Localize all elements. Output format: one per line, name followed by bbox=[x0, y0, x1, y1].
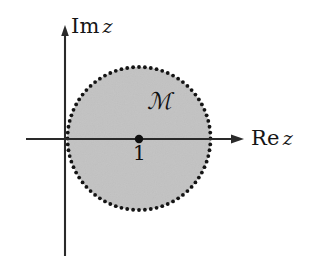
boundary-dot bbox=[72, 165, 76, 169]
boundary-dot bbox=[206, 154, 210, 158]
boundary-dot bbox=[205, 160, 209, 164]
boundary-dot bbox=[98, 196, 102, 200]
boundary-dot bbox=[68, 119, 72, 123]
boundary-dot bbox=[69, 160, 73, 164]
boundary-dot bbox=[208, 143, 212, 147]
real-axis-label: Rez bbox=[251, 128, 293, 149]
boundary-dot bbox=[103, 199, 107, 203]
boundary-dot bbox=[176, 77, 180, 81]
boundary-dot bbox=[89, 84, 93, 88]
boundary-dot bbox=[120, 206, 124, 210]
boundary-dot bbox=[81, 181, 85, 185]
boundary-dot bbox=[208, 148, 212, 152]
boundary-dot bbox=[190, 185, 194, 189]
boundary-dot bbox=[181, 193, 185, 197]
boundary-dot bbox=[125, 66, 129, 70]
boundary-dot bbox=[200, 171, 204, 175]
boundary-dot bbox=[160, 204, 164, 208]
imaginary-axis-label: Imz bbox=[71, 16, 113, 37]
boundary-dot bbox=[74, 171, 78, 175]
boundary-dot bbox=[208, 131, 212, 135]
real-axis-label-roman: Re bbox=[251, 126, 280, 150]
boundary-dot bbox=[114, 69, 118, 73]
boundary-dot bbox=[197, 97, 201, 101]
boundary-dot bbox=[208, 125, 212, 129]
boundary-dot bbox=[72, 108, 76, 112]
boundary-dot bbox=[186, 189, 190, 193]
boundary-dot bbox=[108, 202, 112, 206]
boundary-dot bbox=[171, 199, 175, 203]
boundary-dot bbox=[186, 84, 190, 88]
boundary-dot bbox=[137, 208, 141, 212]
boundary-dot bbox=[68, 154, 72, 158]
boundary-dot bbox=[85, 88, 89, 92]
boundary-dot bbox=[137, 65, 141, 69]
boundary-dot bbox=[160, 69, 164, 73]
boundary-dot bbox=[66, 143, 70, 147]
boundary-dot bbox=[166, 71, 170, 75]
right-arrow-icon bbox=[231, 134, 244, 143]
boundary-dot bbox=[197, 176, 201, 180]
complex-plane-figure: Imz Rez ℳ 1 bbox=[0, 0, 315, 256]
boundary-dot bbox=[155, 67, 159, 71]
boundary-dot bbox=[190, 88, 194, 92]
boundary-dot bbox=[194, 181, 198, 185]
boundary-dot bbox=[89, 189, 93, 193]
boundary-dot bbox=[155, 206, 159, 210]
boundary-dot bbox=[149, 66, 153, 70]
boundary-dot bbox=[171, 74, 175, 78]
boundary-dot bbox=[194, 93, 198, 97]
boundary-dot bbox=[149, 207, 153, 211]
imaginary-axis-label-variable: z bbox=[100, 15, 113, 37]
boundary-dot bbox=[203, 108, 207, 112]
boundary-dot bbox=[200, 103, 204, 107]
boundary-dot bbox=[203, 165, 207, 169]
boundary-dot bbox=[81, 93, 85, 97]
boundary-dot bbox=[67, 125, 71, 129]
marked-point-label: 1 bbox=[133, 143, 146, 163]
boundary-dot bbox=[176, 196, 180, 200]
boundary-dot bbox=[69, 113, 73, 117]
boundary-dot bbox=[67, 148, 71, 152]
imaginary-axis-label-roman: Im bbox=[71, 14, 100, 38]
boundary-dot bbox=[181, 80, 185, 84]
boundary-dot bbox=[85, 185, 89, 189]
boundary-dot bbox=[166, 202, 170, 206]
region-label-m: ℳ bbox=[147, 90, 172, 113]
real-axis-label-variable: z bbox=[280, 127, 293, 149]
boundary-dot bbox=[103, 74, 107, 78]
boundary-dot bbox=[131, 208, 135, 212]
boundary-dot bbox=[93, 80, 97, 84]
boundary-dot bbox=[74, 103, 78, 107]
boundary-dot bbox=[66, 131, 70, 135]
boundary-dot bbox=[108, 71, 112, 75]
boundary-dot bbox=[131, 65, 135, 69]
boundary-dot bbox=[143, 65, 147, 69]
boundary-dot bbox=[114, 204, 118, 208]
boundary-dot bbox=[206, 119, 210, 123]
boundary-dot bbox=[98, 77, 102, 81]
boundary-dot bbox=[93, 193, 97, 197]
boundary-dot bbox=[143, 208, 147, 212]
up-arrow-icon bbox=[61, 25, 69, 36]
boundary-dot bbox=[125, 207, 129, 211]
boundary-dot bbox=[77, 97, 81, 101]
boundary-dot bbox=[77, 176, 81, 180]
boundary-dot bbox=[205, 113, 209, 117]
boundary-dot bbox=[120, 67, 124, 71]
